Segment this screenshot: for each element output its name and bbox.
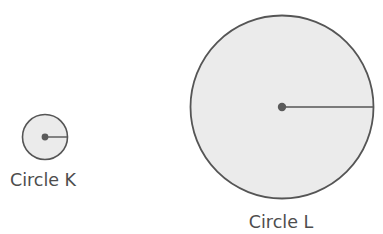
circle-l-label: Circle L: [249, 212, 314, 232]
circles-diagram: Circle K Circle L: [0, 0, 383, 234]
circle-k-center-dot: [42, 134, 49, 141]
circle-k-label: Circle K: [10, 170, 77, 190]
circle-l-center-dot: [278, 103, 286, 111]
